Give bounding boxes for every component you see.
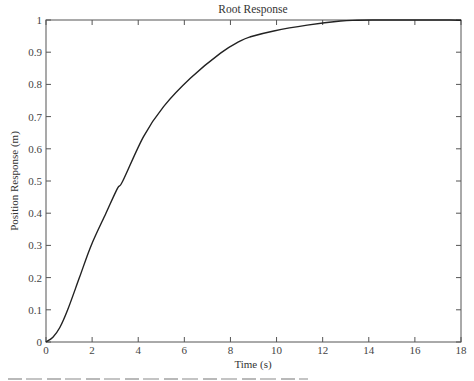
x-tick-label: 2 xyxy=(89,344,95,356)
y-tick-label: 1 xyxy=(37,14,43,26)
x-tick-label: 4 xyxy=(135,344,141,356)
chart: Root Response 024681012141618 00.10.20.3… xyxy=(0,0,474,381)
y-tick-label: 0.1 xyxy=(28,304,42,316)
y-tick-label: 0.4 xyxy=(28,207,42,219)
y-tick-label: 0.9 xyxy=(28,46,42,58)
x-tick-label: 16 xyxy=(409,344,421,356)
x-tick-label: 6 xyxy=(182,344,188,356)
plot-frame xyxy=(46,20,461,342)
x-axis-title: Time (s) xyxy=(234,358,272,371)
chart-title: Root Response xyxy=(218,3,287,16)
y-tick-label: 0.3 xyxy=(28,239,42,251)
x-tick-label: 8 xyxy=(228,344,234,356)
x-axis: 024681012141618 xyxy=(43,20,467,356)
y-axis: 00.10.20.30.40.50.60.70.80.91 xyxy=(28,14,461,348)
y-tick-label: 0.2 xyxy=(28,272,42,284)
y-tick-label: 0.5 xyxy=(28,175,42,187)
x-tick-label: 0 xyxy=(43,344,49,356)
y-axis-title: Position Response (m) xyxy=(8,131,21,231)
x-tick-label: 12 xyxy=(317,344,328,356)
plot-border xyxy=(46,20,461,342)
x-tick-label: 10 xyxy=(271,344,283,356)
cropped-caption-fragment xyxy=(8,376,308,381)
x-tick-label: 18 xyxy=(456,344,468,356)
series-line-position-response xyxy=(46,20,461,342)
y-tick-label: 0.7 xyxy=(28,111,42,123)
y-tick-label: 0 xyxy=(37,336,43,348)
y-tick-label: 0.6 xyxy=(28,143,42,155)
y-tick-label: 0.8 xyxy=(28,78,42,90)
x-tick-label: 14 xyxy=(363,344,375,356)
